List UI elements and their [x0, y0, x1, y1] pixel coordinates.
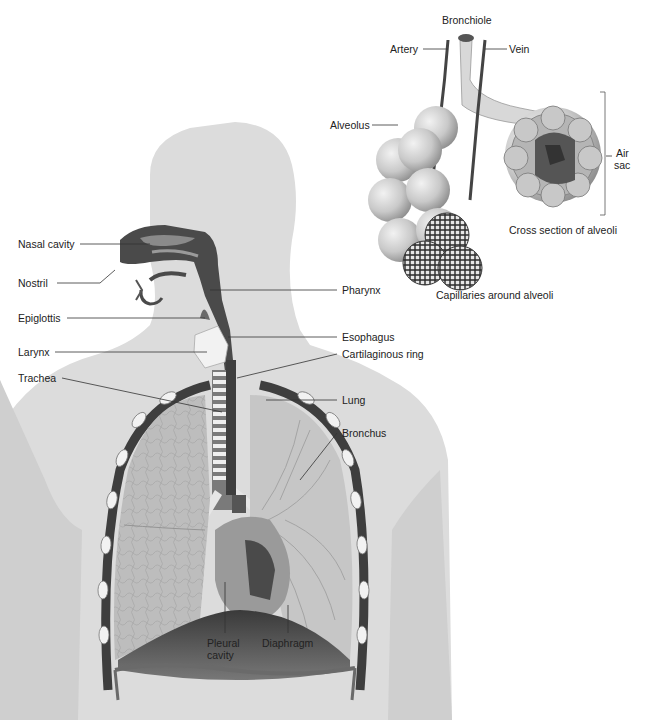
label-cartilaginous-ring: Cartilaginous ring [342, 348, 424, 360]
label-pharynx: Pharynx [342, 284, 381, 296]
label-nostril: Nostril [18, 277, 48, 289]
label-alveolus: Alveolus [330, 119, 370, 131]
label-pleural-cavity-2: cavity [207, 649, 234, 661]
label-bronchiole: Bronchiole [442, 14, 492, 26]
label-artery: Artery [390, 43, 418, 55]
label-trachea: Trachea [18, 372, 56, 384]
label-epiglottis: Epiglottis [18, 312, 61, 324]
label-vein: Vein [509, 43, 529, 55]
label-air-sac-2: sac [614, 159, 630, 171]
label-bronchus: Bronchus [342, 427, 386, 439]
label-capillaries: Capillaries around alveoli [436, 289, 553, 301]
label-diaphragm: Diaphragm [262, 637, 313, 649]
label-pleural-cavity-1: Pleural [207, 637, 240, 649]
alveoli-detail-inset [368, 34, 605, 290]
label-air-sac-1: Air [616, 147, 629, 159]
cross-section-alveoli [504, 106, 602, 207]
label-cross-section: Cross section of alveoli [509, 224, 617, 236]
label-esophagus: Esophagus [342, 331, 395, 343]
label-larynx: Larynx [18, 346, 50, 358]
label-lung: Lung [342, 394, 365, 406]
respiratory-system-diagram [0, 0, 645, 721]
label-nasal-cavity: Nasal cavity [18, 238, 75, 250]
